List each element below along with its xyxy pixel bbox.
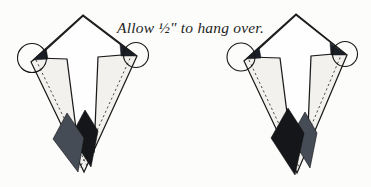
diagram-page: Allow ½" to hang over. <box>0 0 371 187</box>
caption-text: Allow ½" to hang over. <box>117 19 264 37</box>
